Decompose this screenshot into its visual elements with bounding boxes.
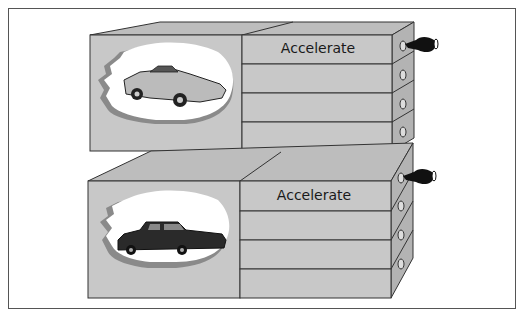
knob-icon[interactable] bbox=[398, 259, 404, 269]
knob-icon[interactable] bbox=[400, 99, 406, 109]
bottom-cabinet: Accelerate bbox=[88, 143, 436, 298]
drawer[interactable] bbox=[240, 211, 391, 240]
knob-icon[interactable] bbox=[400, 70, 406, 80]
drawer[interactable] bbox=[242, 93, 392, 122]
top-cabinet: Accelerate bbox=[90, 22, 438, 151]
top-cabinet-top-face bbox=[90, 22, 414, 35]
drawer-label: Accelerate bbox=[277, 187, 351, 203]
drawer[interactable] bbox=[242, 64, 392, 93]
cabinet-diagram: Accelerate bbox=[0, 0, 524, 316]
drawer[interactable] bbox=[240, 269, 391, 298]
knob-icon[interactable] bbox=[398, 173, 404, 183]
drawer-label: Accelerate bbox=[281, 40, 355, 56]
knob-icon[interactable] bbox=[400, 127, 406, 137]
drawer[interactable] bbox=[240, 240, 391, 269]
knob-icon[interactable] bbox=[398, 230, 404, 240]
knob-icon[interactable] bbox=[398, 201, 404, 211]
knob-icon[interactable] bbox=[400, 41, 406, 51]
